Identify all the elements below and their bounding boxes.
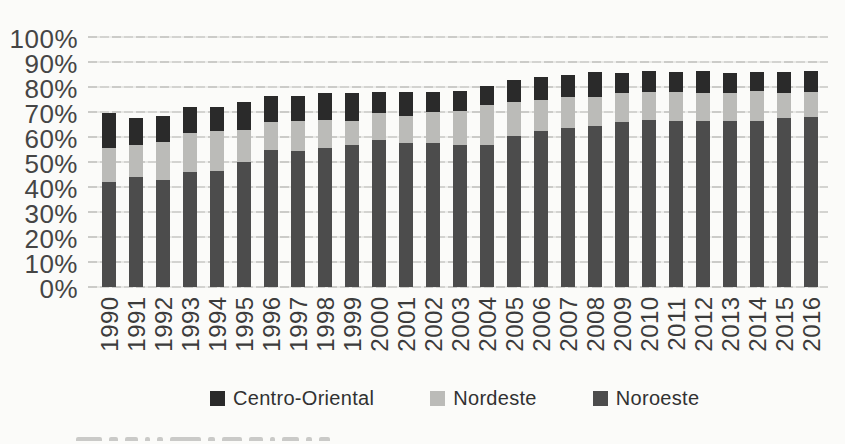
bar-segment-centro-oriental-2015 xyxy=(777,72,791,93)
x-axis-label-2007: 2007 xyxy=(555,296,583,351)
bar-segment-nordeste-1993 xyxy=(183,133,197,172)
bar-segment-noroeste-1990 xyxy=(102,182,116,287)
x-axis-label-2010: 2010 xyxy=(636,296,664,351)
bar-segment-nordeste-1999 xyxy=(345,121,359,145)
bar-segment-centro-oriental-1992 xyxy=(156,116,170,142)
caption-mark xyxy=(319,437,330,441)
bar-segment-noroeste-2014 xyxy=(750,121,764,287)
bar-segment-noroeste-1992 xyxy=(156,180,170,288)
bar-segment-centro-oriental-2014 xyxy=(750,72,764,91)
bar-segment-centro-oriental-2013 xyxy=(723,73,737,93)
caption-mark xyxy=(157,437,163,441)
bar-segment-nordeste-1992 xyxy=(156,142,170,180)
bar-segment-nordeste-2000 xyxy=(372,113,386,139)
bar-segment-nordeste-2004 xyxy=(480,105,494,145)
bar-segment-centro-oriental-1991 xyxy=(129,118,143,144)
x-axis-label-2011: 2011 xyxy=(663,297,691,351)
x-axis-label-1998: 1998 xyxy=(312,296,340,351)
bar-segment-nordeste-2001 xyxy=(399,116,413,144)
gridline-90 pct xyxy=(88,61,828,63)
legend-label: Nordeste xyxy=(453,387,537,410)
caption-mark xyxy=(306,437,312,441)
gridline-100 pct xyxy=(88,36,828,38)
bar-segment-noroeste-2003 xyxy=(453,145,467,288)
x-axis-label-1994: 1994 xyxy=(204,296,232,351)
bar-segment-noroeste-1994 xyxy=(210,171,224,287)
bar-segment-nordeste-2009 xyxy=(615,93,629,122)
bar-segment-nordeste-2007 xyxy=(561,97,575,128)
x-axis-label-1990: 1990 xyxy=(96,296,124,351)
bar-segment-noroeste-2007 xyxy=(561,128,575,287)
bar-segment-nordeste-2014 xyxy=(750,91,764,121)
legend-label: Centro-Oriental xyxy=(233,387,374,410)
bar-segment-nordeste-1996 xyxy=(264,122,278,150)
bar-segment-noroeste-2006 xyxy=(534,131,548,287)
x-axis-label-1993: 1993 xyxy=(177,296,205,351)
x-axis-label-2015: 2015 xyxy=(771,296,799,351)
bar-segment-noroeste-1998 xyxy=(318,148,332,287)
bar-segment-noroeste-2013 xyxy=(723,121,737,287)
x-axis-label-2002: 2002 xyxy=(420,296,448,351)
bar-segment-noroeste-2000 xyxy=(372,140,386,288)
bar-segment-noroeste-1999 xyxy=(345,145,359,288)
bar-segment-centro-oriental-2006 xyxy=(534,77,548,100)
bar-segment-centro-oriental-1996 xyxy=(264,96,278,122)
x-axis-label-2009: 2009 xyxy=(609,296,637,351)
bar-segment-noroeste-1997 xyxy=(291,151,305,287)
caption-mark xyxy=(125,437,138,441)
bar-segment-centro-oriental-1994 xyxy=(210,107,224,131)
bar-segment-nordeste-2008 xyxy=(588,97,602,126)
legend-item-noroeste: Noroeste xyxy=(593,387,700,410)
legend-item-nordeste: Nordeste xyxy=(430,387,537,410)
x-axis-label-2004: 2004 xyxy=(474,296,502,351)
x-axis-label-1991: 1991 xyxy=(123,296,151,351)
bar-segment-nordeste-2002 xyxy=(426,112,440,143)
x-axis-label-2000: 2000 xyxy=(366,296,394,351)
x-axis-label-1995: 1995 xyxy=(231,296,259,351)
x-axis-label-1997: 1997 xyxy=(285,296,313,351)
bar-segment-centro-oriental-1993 xyxy=(183,107,197,133)
legend-swatch-nordeste xyxy=(430,391,445,406)
bar-segment-centro-oriental-1995 xyxy=(237,102,251,130)
bar-segment-centro-oriental-1997 xyxy=(291,96,305,121)
bar-segment-centro-oriental-2012 xyxy=(696,71,710,94)
bar-segment-noroeste-2005 xyxy=(507,136,521,287)
legend-item-centro-oriental: Centro-Oriental xyxy=(210,387,374,410)
bar-segment-nordeste-2005 xyxy=(507,102,521,136)
gridline-80 pct xyxy=(88,86,828,88)
bar-segment-nordeste-1995 xyxy=(237,130,251,163)
bar-segment-noroeste-2015 xyxy=(777,118,791,287)
bar-segment-nordeste-2012 xyxy=(696,93,710,121)
bar-segment-nordeste-1998 xyxy=(318,120,332,149)
legend-swatch-noroeste xyxy=(593,391,608,406)
bar-segment-nordeste-2016 xyxy=(804,92,818,117)
caption-mark xyxy=(208,437,215,441)
y-axis-tick-label: 0% xyxy=(0,276,78,302)
bar-segment-nordeste-2006 xyxy=(534,100,548,131)
legend-swatch-centro-oriental xyxy=(210,391,225,406)
caption-mark xyxy=(109,437,118,441)
bar-segment-centro-oriental-2016 xyxy=(804,71,818,92)
bar-segment-centro-oriental-2002 xyxy=(426,92,440,112)
x-axis-label-1996: 1996 xyxy=(258,296,286,351)
bar-segment-noroeste-2010 xyxy=(642,120,656,288)
caption-mark xyxy=(270,437,275,441)
cutoff-caption-fragment xyxy=(76,437,330,441)
bar-segment-centro-oriental-2011 xyxy=(669,72,683,92)
chart-legend: Centro-OrientalNordesteNoroeste xyxy=(210,387,699,410)
bar-segment-nordeste-2011 xyxy=(669,92,683,121)
bar-segment-centro-oriental-1990 xyxy=(102,113,116,148)
bar-segment-noroeste-2001 xyxy=(399,143,413,287)
x-axis-label-1999: 1999 xyxy=(339,296,367,351)
bar-segment-nordeste-1991 xyxy=(129,145,143,178)
bar-segment-centro-oriental-2005 xyxy=(507,80,521,103)
bar-segment-nordeste-2013 xyxy=(723,93,737,121)
caption-mark xyxy=(170,437,201,441)
caption-mark xyxy=(249,437,263,441)
caption-mark xyxy=(282,437,299,441)
caption-mark xyxy=(76,437,102,441)
bar-segment-centro-oriental-2010 xyxy=(642,71,656,92)
bar-segment-centro-oriental-2008 xyxy=(588,72,602,97)
x-axis-label-2016: 2016 xyxy=(798,296,826,351)
bar-segment-noroeste-2012 xyxy=(696,121,710,287)
